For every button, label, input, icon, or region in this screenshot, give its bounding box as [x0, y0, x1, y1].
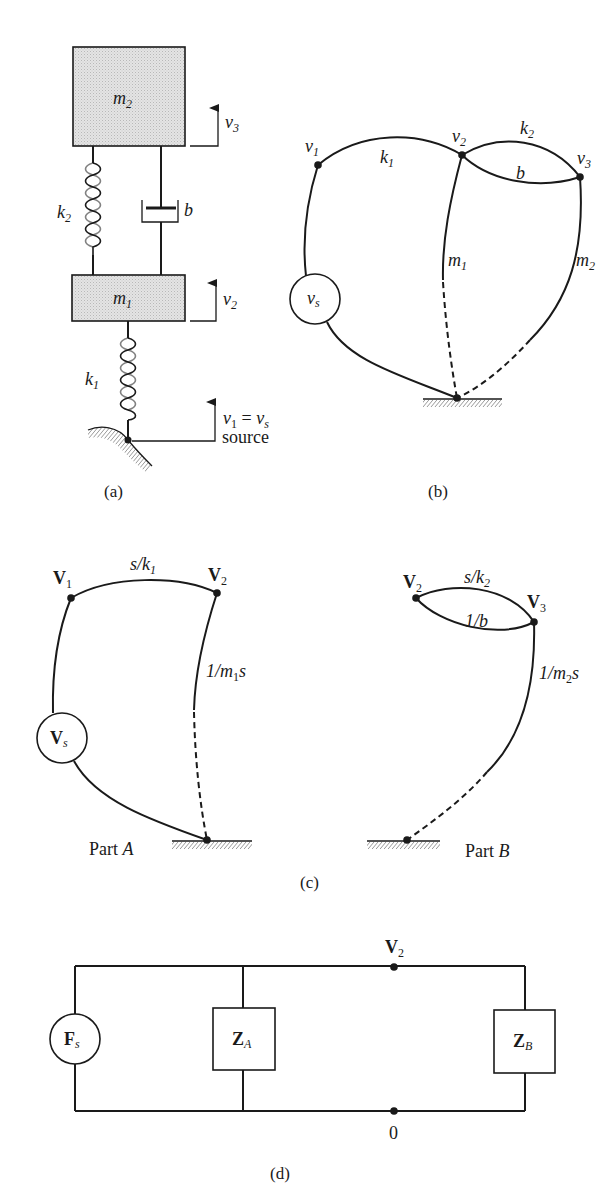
node-v1 [314, 161, 322, 169]
branch-1-over-m2s-solid [487, 622, 534, 772]
panel-b-linear-graph: vs v1 v2 v3 k1 k2 b m1 m2 (b) [290, 118, 595, 501]
panel-d-caption: (d) [270, 1164, 290, 1183]
branch-1-over-m1s-solid [194, 593, 217, 710]
node-V2-a [213, 589, 221, 597]
damper-b-label: b [184, 200, 193, 220]
branch-s-over-k2-label: s/k2 [464, 567, 490, 590]
branch-b-label: b [516, 163, 525, 183]
panel-c-part-b: V2 V3 s/k2 1/b 1/m2s Part B [367, 567, 579, 861]
panel-c-part-a: Vs V1 V2 s/k1 1/m1s Part A [37, 554, 252, 859]
node-V2-a-label: V2 [208, 565, 227, 588]
panel-d-equivalent-circuit: Fs ZA ZB V2 0 (d) [50, 937, 555, 1183]
node-v2 [458, 151, 466, 159]
panel-a-mass-spring-damper: m2 k2 b m1 k1 [57, 47, 269, 501]
branch-m1-dashed [443, 282, 457, 398]
node-v2-label: v2 [452, 126, 466, 149]
ground-curved [88, 427, 152, 472]
node-V2-b-label: V2 [403, 572, 422, 595]
ground-hatch-a [172, 842, 252, 849]
branch-m2-label: m2 [576, 250, 595, 273]
panel-c-caption: (c) [300, 873, 319, 892]
source-attachment-node [125, 437, 132, 444]
node-V2-d [390, 963, 398, 971]
ground-hatch-b [423, 400, 502, 407]
branch-source-upper-a [53, 598, 71, 713]
node-V3 [530, 618, 538, 626]
node-v1-label: v1 [305, 136, 319, 159]
velocity-arrow-v2 [190, 283, 216, 321]
mechanical-system-figure: m2 k2 b m1 k1 [0, 0, 614, 1199]
ground-hatch-b2 [367, 842, 440, 849]
node-zero-d [390, 1107, 398, 1115]
branch-1-over-m1s-dashed [194, 712, 207, 840]
spring-k1 [121, 321, 136, 440]
velocity-v3-label: v3 [225, 112, 239, 135]
node-ground-b2 [403, 836, 411, 844]
damper-b [142, 146, 178, 275]
node-V2-b [412, 594, 420, 602]
node-V1 [67, 594, 75, 602]
part-a-label: Part A [89, 839, 135, 859]
velocity-v2-label: v2 [223, 289, 237, 312]
node-V1-label: V1 [53, 568, 72, 591]
node-ground-b [453, 394, 461, 402]
branch-source-upper [305, 165, 318, 276]
velocity-arrow-v3 [190, 108, 218, 146]
node-v3-label: v3 [577, 148, 591, 171]
node-V3-label: V3 [527, 592, 546, 615]
node-V2-d-label: V2 [385, 937, 404, 960]
branch-k1-label: k1 [380, 147, 394, 170]
branch-1-over-m2s-label: 1/m2s [539, 663, 579, 686]
branch-source-lower [327, 322, 457, 398]
branch-s-over-k1 [71, 580, 217, 598]
spring-k1-label: k1 [85, 369, 99, 392]
velocity-arrow-v1 [132, 402, 215, 441]
source-note-label: source [222, 427, 269, 447]
part-b-label: Part B [465, 841, 510, 861]
spring-k2-label: k2 [57, 202, 71, 225]
node-v3 [576, 173, 584, 181]
branch-source-lower-a [74, 761, 207, 840]
branch-m1-label: m1 [448, 250, 467, 273]
panel-b-caption: (b) [428, 482, 448, 501]
branch-s-over-k1-label: s/k1 [130, 554, 156, 577]
branch-m2-dashed [457, 340, 530, 398]
panel-a-caption: (a) [104, 482, 123, 501]
branch-m2-solid [530, 177, 581, 340]
branch-1-over-m1s-label: 1/m1s [206, 661, 246, 684]
branch-1-over-m2s-dashed [407, 772, 487, 840]
branch-1-over-b-label: 1/b [465, 611, 488, 631]
branch-k2-label: k2 [520, 118, 534, 141]
node-ground-a [203, 836, 211, 844]
node-zero-d-label: 0 [389, 1123, 398, 1143]
spring-k2 [86, 146, 101, 275]
